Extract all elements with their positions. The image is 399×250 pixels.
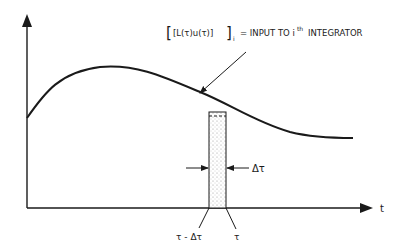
x-axis-arrow-icon (360, 203, 373, 213)
integrator-input-diagram: t [ [L(τ)u(τ)] ] i = INPUT TO i th INTEG… (0, 0, 399, 250)
annotation-tail-text: INTEGRATOR (308, 28, 363, 38)
annotation-subscript: i (233, 35, 235, 42)
strip-left-leader (199, 208, 209, 228)
integration-strip (209, 112, 226, 208)
annotation-leader (200, 52, 246, 93)
annotation-equals-text: = INPUT TO i (240, 28, 295, 38)
strip-right-leader (226, 208, 236, 229)
strip-right-label: τ (234, 232, 239, 242)
bracket-close: ] (226, 24, 232, 42)
annotation-superscript: th (297, 25, 303, 32)
width-label: Δτ (252, 163, 265, 174)
x-axis (27, 203, 373, 213)
annotation: [ [L(τ)u(τ)] ] i = INPUT TO i th INTEGRA… (166, 24, 363, 42)
strip-left-label: τ - Δτ (176, 232, 202, 242)
bracket-open: [ (166, 24, 172, 42)
y-axis (22, 14, 32, 208)
y-axis-arrow-icon (22, 14, 32, 27)
x-axis-label: t (380, 203, 384, 214)
function-curve (27, 67, 353, 138)
annotation-expression: [L(τ)u(τ)] (173, 28, 213, 38)
